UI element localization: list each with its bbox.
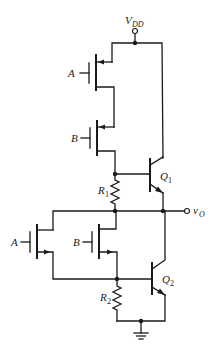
output-node: v O <box>53 204 205 230</box>
output-label-sub: O <box>199 210 205 219</box>
r2-resistor: R 2 <box>99 279 121 321</box>
circuit-diagram: V DD A B Q 1 R <box>0 0 214 356</box>
nmos-b-gate-label: B <box>73 236 80 248</box>
r2-label: R <box>99 291 107 303</box>
vdd-rail <box>112 43 163 158</box>
pmos-b-gate-label: B <box>71 132 78 144</box>
r1-label-sub: 1 <box>105 190 109 199</box>
r2-label-sub: 2 <box>107 297 111 306</box>
q2-transistor: Q 2 <box>115 211 174 321</box>
pmos-b: B <box>71 120 115 174</box>
r1-resistor: R 1 <box>97 174 119 211</box>
output-label: v <box>193 204 198 216</box>
q1-transistor: Q 1 <box>113 157 172 211</box>
pmos-a: A <box>67 54 114 127</box>
q1-label: Q <box>160 170 168 182</box>
ground-icon <box>134 319 148 339</box>
vdd-terminal: V DD <box>125 14 144 45</box>
q2-label-sub: 2 <box>170 279 174 288</box>
nmos-b: B <box>73 211 117 279</box>
r1-label: R <box>97 184 105 196</box>
vdd-label-sub: DD <box>131 20 144 29</box>
q2-label: Q <box>162 273 170 285</box>
q1-label-sub: 1 <box>168 176 172 185</box>
pmos-a-gate-label: A <box>67 67 75 79</box>
nmos-a-gate-label: A <box>10 236 18 248</box>
